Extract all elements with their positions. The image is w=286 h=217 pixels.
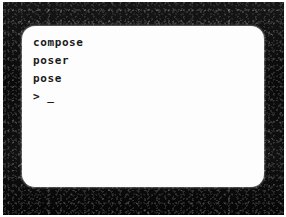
terminal-line: compose [33, 34, 258, 52]
text-cursor: _ [47, 88, 54, 106]
crt-photograph: compose poser pose > _ [0, 0, 286, 217]
command-prompt-line[interactable]: > _ [33, 88, 258, 106]
crt-screen[interactable]: compose poser pose > _ [22, 26, 264, 187]
terminal-line: poser [33, 52, 258, 70]
monitor-bezel: compose poser pose > _ [3, 2, 284, 215]
terminal-line: pose [33, 70, 258, 88]
terminal-output: compose poser pose > _ [33, 34, 258, 183]
prompt-symbol: > [33, 88, 40, 106]
